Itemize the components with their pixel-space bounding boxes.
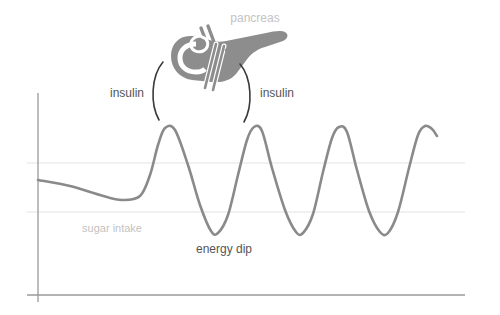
energy-dip-label: energy dip: [196, 242, 252, 256]
pancreas-label: pancreas: [230, 11, 279, 25]
blood-sugar-insulin-diagram: pancreas insulin insulin sugar intake en…: [0, 0, 500, 315]
insulin-label-left: insulin: [110, 86, 144, 100]
sugar-intake-label: sugar intake: [82, 222, 142, 234]
insulin-label-right: insulin: [260, 86, 294, 100]
